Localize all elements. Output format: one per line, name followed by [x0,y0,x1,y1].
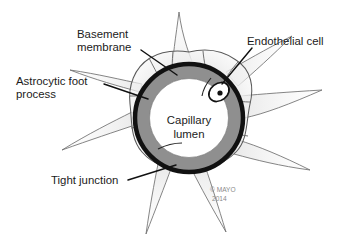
astrocytic-foot-process-label-line2: process [16,88,56,100]
endothelial-cell-label: Endothelial cell [247,35,324,47]
credit-line1: © MAYO [210,186,236,193]
capillary-diagram-svg: Basement membrane Endothelial cell Astro… [0,0,344,236]
tight-junction-label: Tight junction [51,174,118,186]
illustration-container: Basement membrane Endothelial cell Astro… [0,0,344,236]
basement-membrane-label-line1: Basement [77,28,129,40]
credit-line2: 2014 [212,195,227,202]
astrocytic-foot-process-label-line1: Astrocytic foot [16,75,88,87]
basement-membrane-label-line2: membrane [77,41,131,53]
capillary-lumen-label-line1: Capillary [167,114,212,126]
endothelial-nucleolus-dot [217,90,222,95]
capillary-lumen-label-line2: lumen [173,128,204,140]
